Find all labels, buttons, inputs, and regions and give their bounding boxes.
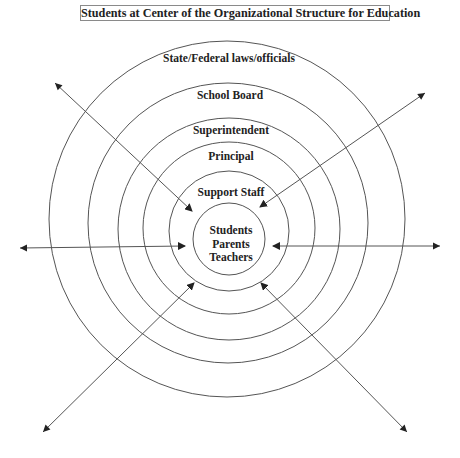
center-label-teachers: Teachers [209, 251, 253, 263]
organizational-structure-diagram: State/Federal laws/officialsSchool Board… [0, 0, 460, 458]
arrow-left [20, 246, 185, 248]
ring-label: Support Staff [198, 186, 265, 199]
center-labels: StudentsParentsTeachers [209, 224, 253, 263]
ring-label: Principal [208, 150, 253, 163]
arrowhead-icon [433, 243, 440, 250]
arrow-bottom-left [43, 283, 194, 432]
arrow-top-right [260, 93, 425, 207]
arrow-bottom-right [261, 283, 407, 432]
arrowhead-icon [417, 93, 425, 100]
ring-label: School Board [197, 89, 264, 101]
ring-labels: State/Federal laws/officialsSchool Board… [163, 52, 295, 199]
arrow-top-left [55, 83, 192, 211]
ring-label: Superintendent [193, 124, 269, 137]
center-label-students: Students [210, 224, 253, 236]
ring-label: State/Federal laws/officials [163, 52, 295, 64]
arrowhead-icon [20, 244, 27, 251]
center-label-parents: Parents [212, 238, 250, 250]
